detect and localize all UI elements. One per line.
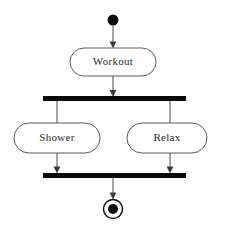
arrow-head-icon [110,42,117,49]
arrow-head-icon [110,193,117,200]
action-node-shower[interactable]: Shower [14,123,100,153]
initial-node[interactable] [108,15,119,26]
edge-join-to-end [110,178,117,200]
final-node-dot-icon [108,204,118,214]
final-node[interactable] [104,200,123,219]
arrow-head-icon [110,90,117,97]
action-node-relax[interactable]: Relax [127,123,207,153]
edge-shower-to-join [54,153,61,174]
action-node-label: Shower [39,131,74,143]
initial-node-dot-icon [108,15,119,26]
action-node-label: Workout [93,55,133,67]
join-bar[interactable] [43,173,186,178]
activity-diagram-svg: Workout Shower Relax [0,0,225,228]
activity-diagram-canvas: Workout Shower Relax [0,0,225,228]
fork-bar-shape [43,96,186,101]
action-node-label: Relax [153,131,180,143]
action-node-workout[interactable]: Workout [70,48,156,76]
edge-workout-to-fork [110,76,117,97]
join-bar-shape [43,173,186,178]
edge-start-to-workout [110,26,117,49]
arrow-head-icon [167,167,174,174]
fork-bar[interactable] [43,96,186,101]
arrow-head-icon [54,167,61,174]
edge-relax-to-join [167,153,174,174]
